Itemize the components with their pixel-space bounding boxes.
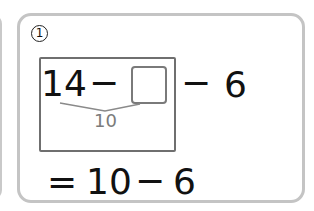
result-first-operand: 10 xyxy=(86,164,132,200)
first-operand: 14 xyxy=(41,66,87,102)
equals-sign: = xyxy=(47,164,77,200)
minus-sign-1: − xyxy=(89,65,119,101)
second-operand: 6 xyxy=(224,67,247,103)
minus-sign-2: − xyxy=(181,65,211,101)
result-minus-sign: − xyxy=(135,163,165,199)
answer-input-box[interactable] xyxy=(131,66,167,104)
previous-card-edge xyxy=(0,14,2,200)
decomposition-label: 10 xyxy=(94,112,117,130)
result-second-operand: 6 xyxy=(173,164,196,200)
problem-number-badge: 1 xyxy=(31,25,48,42)
